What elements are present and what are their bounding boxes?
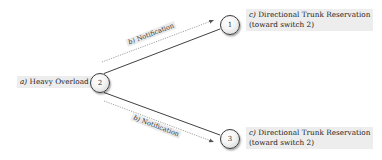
node-1-label: 1 — [228, 21, 232, 29]
heavy-overload-prefix: a) — [20, 77, 27, 86]
reservation-bottom-line2: (toward switch 2) — [249, 138, 370, 148]
reservation-top-prefix: c) — [249, 10, 256, 19]
node-1[interactable]: 1 — [220, 15, 240, 35]
node-3[interactable]: 3 — [220, 129, 240, 149]
node-2-label: 2 — [98, 79, 102, 87]
heavy-overload-text: Heavy Overload — [30, 77, 89, 86]
reservation-bottom-line1: Directional Trunk Reservation — [258, 128, 370, 137]
reservation-label-top: c) Directional Trunk Reservation (toward… — [246, 9, 373, 31]
edge-2-1-solid — [104, 29, 220, 74]
node-3-label: 3 — [228, 135, 232, 143]
edge-2-3-notification — [104, 101, 214, 142]
heavy-overload-label: a) Heavy Overload — [17, 76, 92, 88]
reservation-bottom-prefix: c) — [249, 128, 256, 137]
node-2[interactable]: 2 — [90, 73, 110, 93]
reservation-top-line2: (toward switch 2) — [249, 20, 370, 30]
reservation-label-bottom: c) Directional Trunk Reservation (toward… — [246, 127, 373, 149]
reservation-top-line1: Directional Trunk Reservation — [258, 10, 370, 19]
